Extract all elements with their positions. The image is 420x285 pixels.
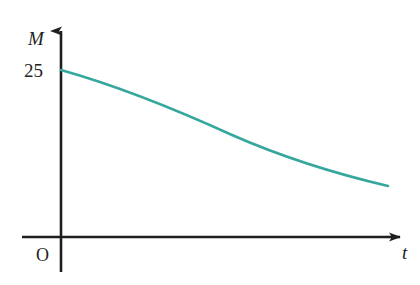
origin-label: O [36, 245, 49, 265]
chart-background [0, 0, 420, 285]
chart-canvas: M 25 O t [0, 0, 420, 285]
y-tick-label-25: 25 [24, 60, 43, 81]
x-axis-label: t [402, 242, 408, 263]
y-axis-label: M [27, 28, 45, 49]
exponential-decay-chart: M 25 O t [0, 0, 420, 285]
